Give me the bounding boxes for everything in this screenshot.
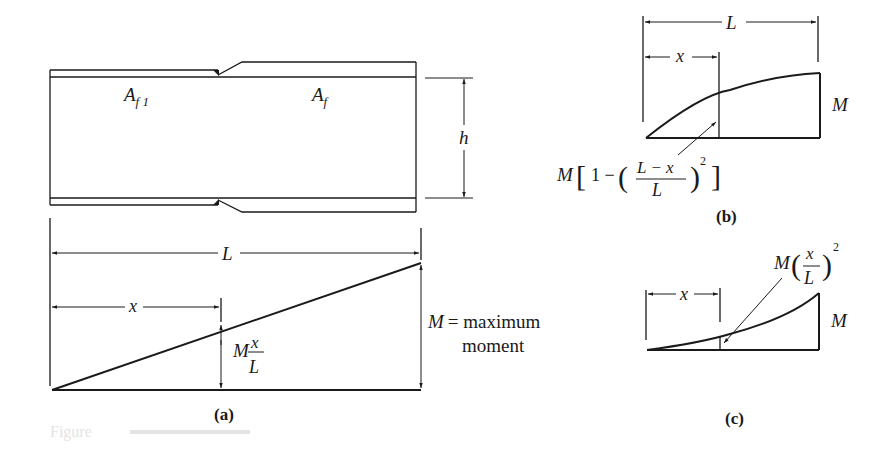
linear-moment-line <box>52 263 421 390</box>
label-max-moment: M= maximum <box>427 311 541 332</box>
label-Mx-num: x <box>250 333 259 352</box>
svg-text:L − x: L − x <box>636 158 674 177</box>
svg-text:2: 2 <box>833 240 839 254</box>
label-x-a: x <box>128 296 137 316</box>
label-M-b: M <box>831 94 849 115</box>
scan-artifact-smudge <box>130 430 250 434</box>
left-paren: ( <box>618 160 628 194</box>
moment-diagram-a: L x M x L M= maximum moment (a) <box>50 218 541 424</box>
svg-text:M: M <box>556 164 574 185</box>
moment-diagram-c: x M M ( x L ) 2 (c) <box>646 240 848 428</box>
formula-c: M ( x L ) 2 <box>773 240 839 288</box>
beam-elevation: Af 1 Af h <box>50 62 473 212</box>
parabola-curve-b <box>646 73 820 138</box>
label-max-moment-line2: moment <box>462 335 525 356</box>
svg-text:x: x <box>805 244 814 263</box>
moment-diagram-b: L x M M [ 1 − ( L − x L ) 2 ] (b) <box>556 12 849 226</box>
bottom-flange-transition <box>218 200 416 212</box>
caption-b: (b) <box>716 207 737 226</box>
top-flange-transition <box>218 62 416 75</box>
scan-artifact-text: Figure <box>50 423 92 441</box>
label-af: Af <box>310 84 330 109</box>
label-x-c: x <box>679 284 688 304</box>
label-h: h <box>459 127 469 148</box>
right-paren: ) <box>690 160 700 194</box>
label-af1: Af 1 <box>122 84 149 109</box>
label-L-b: L <box>725 12 737 33</box>
right-bracket: ] <box>711 159 721 192</box>
label-M-c: M <box>830 310 848 331</box>
top-weld-icon <box>213 70 219 76</box>
svg-text:L: L <box>803 268 814 288</box>
caption-a: (a) <box>214 405 234 424</box>
left-paren-c: ( <box>791 248 801 282</box>
label-L-a: L <box>221 243 233 264</box>
label-Mx-den: L <box>248 357 259 377</box>
formula-b: M [ 1 − ( L − x L ) 2 ] <box>556 154 721 200</box>
svg-text:M: M <box>773 252 791 273</box>
caption-c: (c) <box>725 409 744 428</box>
flange-cutoff-figure: Af 1 Af h L x M x L <box>0 0 890 456</box>
leader-arrow-icon-c <box>724 278 782 343</box>
bottom-weld-icon <box>213 199 219 205</box>
left-bracket: [ <box>576 159 586 192</box>
right-paren-c: ) <box>822 248 832 282</box>
svg-text:2: 2 <box>700 154 706 168</box>
svg-text:L: L <box>651 180 662 200</box>
parabola-curve-c <box>647 293 819 350</box>
svg-text:1 −: 1 − <box>591 165 615 185</box>
label-x-b: x <box>675 46 684 66</box>
label-Mx-M: M <box>232 340 250 361</box>
